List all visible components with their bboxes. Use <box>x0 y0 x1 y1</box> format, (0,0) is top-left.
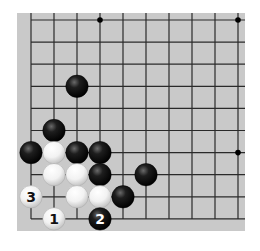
black-stone <box>66 141 88 163</box>
black-stone-icon <box>66 75 88 97</box>
move-number-label: 2 <box>95 211 105 227</box>
white-stone-icon <box>89 186 111 208</box>
black-stone <box>135 164 157 186</box>
white-stone-icon <box>43 141 65 163</box>
black-stone-icon <box>66 141 88 163</box>
star-point-icon <box>235 17 241 23</box>
black-stone <box>89 141 111 163</box>
move-number-label: 1 <box>49 211 59 227</box>
white-stone-move-1: 1 <box>43 208 65 230</box>
black-stone <box>66 75 88 97</box>
white-stone <box>66 186 88 208</box>
black-stone-icon <box>43 119 65 141</box>
white-stone <box>43 141 65 163</box>
black-stone <box>112 186 134 208</box>
black-stone <box>43 119 65 141</box>
black-stone-move-2: 2 <box>89 208 111 230</box>
black-stone-icon <box>112 186 134 208</box>
white-stone-icon <box>66 164 88 186</box>
white-stone-icon <box>43 164 65 186</box>
black-stone-icon <box>135 164 157 186</box>
go-board: 312 <box>0 0 260 251</box>
white-stone <box>43 164 65 186</box>
white-stone <box>89 186 111 208</box>
white-stone-icon <box>66 186 88 208</box>
black-stone <box>20 141 42 163</box>
black-stone-icon <box>89 141 111 163</box>
white-stone <box>66 164 88 186</box>
star-point-icon <box>235 150 241 156</box>
black-stone-icon <box>20 141 42 163</box>
move-number-label: 3 <box>26 189 36 205</box>
white-stone-move-3: 3 <box>20 186 42 208</box>
black-stone-icon <box>89 164 111 186</box>
star-point-icon <box>97 17 103 23</box>
black-stone <box>89 164 111 186</box>
